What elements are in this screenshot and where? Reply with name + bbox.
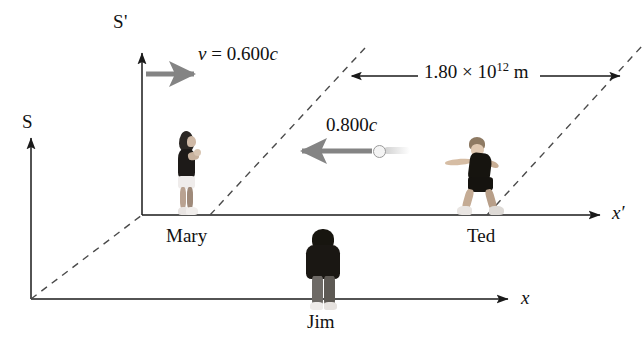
person-label-mary: Mary (166, 226, 207, 245)
distance-label: 1.80 × 1012 m (424, 62, 529, 81)
jim-shoe-right (324, 302, 337, 310)
distance-unit: m (514, 61, 529, 82)
jim-torso (306, 245, 340, 279)
frame-velocity-value: 0.600c (227, 43, 278, 64)
frame-label-s-prime: S' (113, 12, 128, 31)
distance-times-symbol: × (462, 61, 473, 82)
dashed-origin-connector (31, 215, 142, 299)
mary-leg-left (180, 187, 186, 209)
ted-shoe-right (489, 206, 504, 215)
ball-velocity-label: 0.800c (326, 115, 377, 134)
x-prime-mark: ′ (620, 202, 625, 223)
jim-leg-left (312, 276, 323, 305)
relativity-figure: S' S v = 0.600c 0.800c 1.80 × 1012 m Mar… (0, 0, 644, 348)
axis-label-x-prime: x′ (612, 203, 626, 222)
mary-shoe-right (186, 207, 198, 215)
jim-leg-right (324, 276, 335, 305)
ball-motion-trail (384, 147, 410, 154)
jim-shoe-left (310, 302, 323, 310)
distance-base: 10 (477, 61, 496, 82)
axis-label-x: x (521, 288, 529, 307)
ted-shoe-left (457, 206, 472, 215)
person-ted-figure (445, 137, 511, 215)
frame-velocity-equals: = (206, 43, 226, 64)
person-jim-figure (303, 229, 343, 311)
person-mary-figure (170, 131, 204, 215)
distance-mantissa: 1.80 (424, 61, 457, 82)
ball-velocity-value: 0.800c (326, 114, 377, 135)
frame-label-s: S (22, 112, 33, 131)
person-label-ted: Ted (467, 226, 495, 245)
ball (373, 145, 386, 158)
mary-face (187, 136, 196, 147)
person-label-jim: Jim (307, 312, 334, 331)
frame-velocity-label: v = 0.600c (198, 44, 278, 63)
mary-leg-right (187, 187, 193, 209)
mary-hand (194, 149, 201, 156)
distance-exponent: 12 (496, 60, 509, 74)
